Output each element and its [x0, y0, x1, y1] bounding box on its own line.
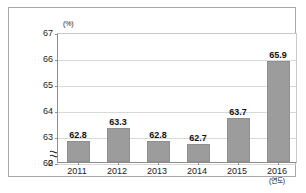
bar[interactable]: [227, 118, 250, 162]
x-axis-tick-mark: [278, 162, 279, 165]
y-axis-tick-label: 67: [23, 29, 53, 38]
gridline: [58, 164, 296, 165]
bar-value-label: 63.7: [218, 108, 258, 117]
y-axis-tick-label: 66: [23, 55, 53, 64]
x-axis-tick-mark: [158, 162, 159, 165]
x-axis-unit-label: (연도): [253, 176, 301, 185]
y-axis-tick-mark: [55, 86, 58, 87]
bar[interactable]: [267, 61, 290, 162]
y-axis-tick-mark: [55, 164, 58, 165]
plot-area: 62.863.362.862.763.765.9: [57, 33, 297, 163]
bar[interactable]: [147, 141, 170, 162]
bar-value-label: 62.8: [58, 131, 98, 140]
y-axis-tick-mark: [55, 34, 58, 35]
gridline: [58, 112, 296, 113]
gridline: [58, 86, 296, 87]
x-axis-tick-mark: [198, 162, 199, 165]
chart-frame: (%) 6766656463620 62.863.362.862.763.765…: [8, 7, 296, 177]
y-axis-unit-label: (%): [63, 20, 73, 28]
y-axis-tick-label: 64: [23, 107, 53, 116]
bar-value-label: 62.8: [138, 131, 178, 140]
x-axis-tick-mark: [118, 162, 119, 165]
y-axis-tick-mark: [55, 60, 58, 61]
x-axis-tick-label: 2016(연도): [253, 166, 301, 185]
bar[interactable]: [107, 128, 130, 162]
y-axis-tick-mark: [55, 112, 58, 113]
bar-value-label: 62.7: [178, 134, 218, 143]
gridline: [58, 60, 296, 61]
y-axis-tick-label: 0: [23, 159, 53, 168]
y-axis-tick-labels: 6766656463620: [19, 8, 53, 178]
x-axis-tick-mark: [78, 162, 79, 165]
y-axis-tick-label: 63: [23, 133, 53, 142]
bar-value-label: 65.9: [258, 51, 298, 60]
bar-value-label: 63.3: [98, 118, 138, 127]
bar[interactable]: [187, 144, 210, 162]
x-axis-tick-mark: [238, 162, 239, 165]
y-axis-tick-label: 65: [23, 81, 53, 90]
bar[interactable]: [67, 141, 90, 162]
